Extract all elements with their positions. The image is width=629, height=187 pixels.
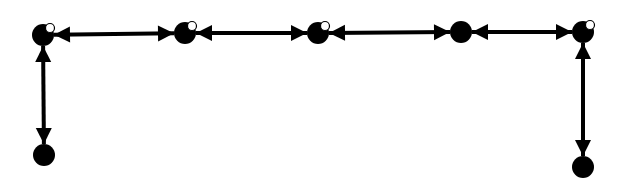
node-highlight-icon [321,22,330,31]
arrowhead-icon [291,25,307,41]
node-n2 [174,22,197,45]
edge-n3-n4 [329,24,450,41]
arrowhead-icon [54,27,70,43]
arrowhead-icon [35,46,51,62]
arrowhead-icon [434,24,450,40]
arrowhead-icon [472,24,488,40]
arrowhead-icon [36,128,52,144]
node-n5 [572,21,595,44]
arrowhead-icon [196,25,212,41]
arrowhead-icon [158,25,174,41]
arrowhead-icon [556,24,572,40]
node-circle [450,21,472,43]
edge-n1-n6 [35,46,52,144]
arrowhead-icon [329,25,345,41]
edge-n4-n5 [472,24,572,40]
node-n6 [33,144,55,166]
arrowhead-icon [575,43,591,59]
node-n1 [32,24,55,47]
node-circle [33,144,55,166]
node-highlight-icon [188,22,197,31]
arrowhead-icon [575,140,591,156]
edge-line [54,33,174,35]
node-n4 [450,21,472,43]
node-n3 [307,22,330,45]
edge-n5-n7 [575,43,591,156]
diagram-canvas [0,0,629,187]
node-circle [572,156,594,178]
edge-line [329,32,450,33]
node-highlight-icon [46,24,55,33]
node-n7 [572,156,594,178]
edge-n2-n3 [196,25,307,41]
node-highlight-icon [586,21,595,30]
edge-n1-n2 [54,25,174,42]
